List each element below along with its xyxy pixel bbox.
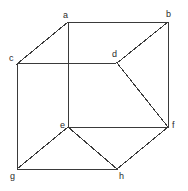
cube-edge-d-f: [117, 63, 168, 127]
cube-edge-e-h: [68, 127, 117, 169]
vertex-label-g: g: [10, 172, 15, 181]
cube-edge-group: [17, 22, 168, 169]
vertex-label-a: a: [63, 11, 68, 20]
vertex-label-f: f: [172, 121, 175, 130]
vertex-label-e: e: [60, 121, 65, 130]
cube-edge-h-f: [117, 127, 168, 169]
vertex-label-b: b: [166, 10, 171, 19]
vertex-label-h: h: [119, 172, 124, 181]
vertex-label-d: d: [112, 50, 117, 59]
cube-edge-e-g: [17, 127, 68, 169]
cube-diagram-canvas: abcdefgh: [0, 0, 188, 191]
cube-edge-b-d: [117, 22, 168, 63]
cube-edge-a-c: [17, 22, 68, 64]
cube-wireframe: [0, 0, 188, 191]
cube-edge-c-d: [17, 63, 117, 64]
vertex-label-c: c: [9, 54, 14, 63]
